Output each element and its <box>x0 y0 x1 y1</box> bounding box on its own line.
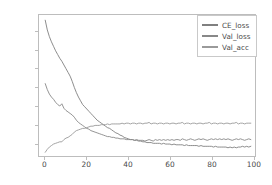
x-tick-label: 20 <box>81 160 91 169</box>
x-tick-mark <box>44 157 45 160</box>
legend-item-ce_loss[interactable]: CE_loss <box>202 20 251 30</box>
x-tick-mark <box>128 157 129 160</box>
legend-label: Val_acc <box>222 43 249 52</box>
legend-label: CE_loss <box>222 21 249 30</box>
x-tick-label: 80 <box>207 160 217 169</box>
x-tick-mark <box>170 157 171 160</box>
legend-line-icon <box>202 24 218 25</box>
legend-label: Val_loss <box>222 32 251 41</box>
x-tick-label: 60 <box>165 160 175 169</box>
legend-item-val_loss[interactable]: Val_loss <box>202 31 251 41</box>
x-tick-label: 100 <box>247 160 261 169</box>
legend-line-icon <box>202 35 218 36</box>
legend-item-val_acc[interactable]: Val_acc <box>202 42 251 52</box>
figure: 0.500.751.001.251.501.752.00 02040608010… <box>0 0 272 185</box>
legend: CE_lossVal_lossVal_acc <box>197 15 257 57</box>
legend-line-icon <box>202 46 218 47</box>
x-tick-mark <box>86 157 87 160</box>
x-tick-mark <box>254 157 255 160</box>
x-tick-label: 40 <box>123 160 133 169</box>
x-tick-label: 0 <box>42 160 47 169</box>
series-line-val_acc <box>45 122 251 152</box>
x-tick-mark <box>212 157 213 160</box>
